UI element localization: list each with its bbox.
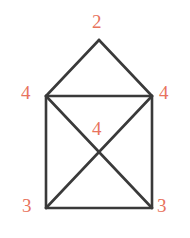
vertex-label-right-mid: 4 xyxy=(159,83,169,102)
edge-apex-topleft xyxy=(46,40,99,96)
vertex-label-apex: 2 xyxy=(92,12,102,31)
edge-apex-topright xyxy=(99,40,152,96)
geometry-figure: 2 4 4 4 3 3 xyxy=(0,0,190,238)
vertex-label-left-mid: 4 xyxy=(21,83,31,102)
vertex-label-center: 4 xyxy=(92,119,102,138)
vertex-label-bottom-right: 3 xyxy=(157,196,167,215)
vertex-label-bottom-left: 3 xyxy=(22,196,32,215)
